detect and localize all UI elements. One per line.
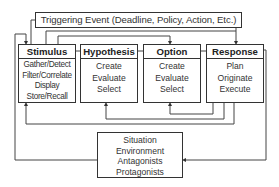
hypothesis-item: Create <box>81 61 137 73</box>
hypothesis-title: Hypothesis <box>81 45 137 59</box>
response-item: Execute <box>207 84 263 96</box>
situation-item: Situation <box>98 135 182 146</box>
option-item: Evaluate <box>144 73 200 85</box>
stimulus-to-response-top-line <box>46 31 236 44</box>
response-to-hypothesis-feedback <box>106 103 224 119</box>
response-box: Response Plan Originate Execute <box>206 44 264 103</box>
hypothesis-box: Hypothesis Create Evaluate Select <box>80 44 138 103</box>
hypothesis-item: Evaluate <box>81 73 137 85</box>
situation-item: Environment <box>98 146 182 157</box>
stimulus-title: Stimulus <box>19 45 75 59</box>
option-box: Option Create Evaluate Select <box>143 44 201 103</box>
triggering-event-label: Triggering Event (Deadline, Policy, Acti… <box>41 14 237 25</box>
triggering-event-box: Triggering Event (Deadline, Policy, Acti… <box>35 12 242 28</box>
situation-item: Protagonists <box>98 167 182 178</box>
stimulus-to-option-top-line <box>58 36 170 44</box>
response-to-option-feedback <box>170 103 213 114</box>
stimulus-item: Store/Recall <box>19 92 75 103</box>
option-title: Option <box>144 45 200 59</box>
stimulus-item: Gather/Detect <box>19 60 75 71</box>
hypothesis-item: Select <box>81 84 137 96</box>
response-item: Plan <box>207 61 263 73</box>
stimulus-box: Stimulus Gather/Detect Filter/Correlate … <box>18 44 76 103</box>
stimulus-item: Display <box>19 81 75 92</box>
response-title: Response <box>207 45 263 59</box>
response-item: Originate <box>207 73 263 85</box>
situation-box: Situation Environment Antagonists Protag… <box>97 132 183 178</box>
stimulus-item: Filter/Correlate <box>19 71 75 82</box>
option-item: Create <box>144 61 200 73</box>
situation-item: Antagonists <box>98 156 182 167</box>
option-item: Select <box>144 84 200 96</box>
